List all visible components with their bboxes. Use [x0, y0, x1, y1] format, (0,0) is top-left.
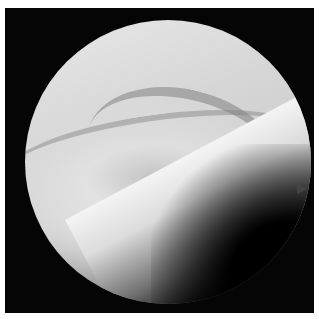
image-frame — [5, 8, 314, 313]
orientation-notch-icon — [297, 184, 307, 194]
arthroscopic-view — [25, 20, 311, 304]
vignette-shadow — [151, 144, 311, 304]
